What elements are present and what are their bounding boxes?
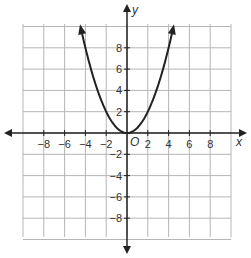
x-tick-label: −8: [38, 138, 51, 150]
y-axis-label: y: [131, 3, 139, 17]
x-axis-label: x: [235, 135, 243, 149]
y-tick-label: 8: [116, 42, 122, 54]
y-tick-label: 6: [116, 63, 122, 75]
y-tick-label: −2: [109, 148, 122, 160]
y-axis-down-arrow-icon: [123, 246, 131, 254]
x-tick-label: −6: [58, 138, 71, 150]
curve-arrow-icon: [78, 24, 86, 35]
y-tick-label: −4: [109, 170, 122, 182]
x-axis-left-arrow-icon: [4, 129, 12, 137]
x-tick-label: −4: [79, 138, 92, 150]
coordinate-plane: −8−6−4−22468−8−6−4−22468 x y O: [0, 0, 251, 258]
y-tick-label: −6: [109, 191, 122, 203]
y-tick-label: −8: [109, 212, 122, 224]
x-tick-label: 2: [145, 138, 151, 150]
x-tick-label: 8: [207, 138, 213, 150]
x-tick-label: 6: [186, 138, 192, 150]
curve-arrow-icon: [168, 24, 176, 35]
origin-label: O: [130, 135, 139, 149]
y-tick-label: 2: [116, 106, 122, 118]
x-tick-label: 4: [166, 138, 172, 150]
y-axis-up-arrow-icon: [123, 4, 131, 12]
y-tick-label: 4: [116, 84, 122, 96]
